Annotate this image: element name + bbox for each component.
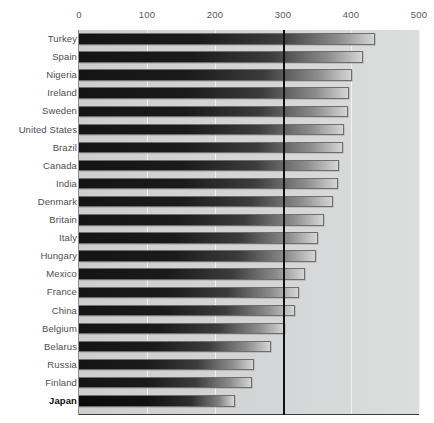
bar-row[interactable]: Italy (0, 229, 434, 247)
x-axis-tick-label: 500 (411, 9, 427, 20)
bar[interactable] (79, 377, 252, 388)
bar-row[interactable]: Ireland (0, 84, 434, 102)
bar[interactable] (79, 124, 344, 135)
bar[interactable] (79, 359, 254, 370)
bar-chart: 0100200300400500 TurkeySpainNigeriaIrela… (0, 0, 434, 423)
bar-row[interactable]: France (0, 283, 434, 301)
category-label: United States (19, 124, 77, 135)
bar-row[interactable]: Belarus (0, 338, 434, 356)
bar[interactable] (79, 51, 363, 62)
bar-row[interactable]: Mexico (0, 265, 434, 283)
emphasis-gridline (283, 30, 285, 415)
bar-row[interactable]: Britain (0, 211, 434, 229)
bar-row[interactable]: Canada (0, 157, 434, 175)
category-label: Spain (52, 51, 77, 62)
category-label: Denmark (38, 196, 77, 207)
bar[interactable] (79, 69, 352, 80)
bar-row[interactable]: United States (0, 121, 434, 139)
category-label: Belgium (42, 323, 77, 334)
bar-row[interactable]: Japan (0, 392, 434, 410)
bar[interactable] (79, 287, 299, 298)
category-label: Sweden (42, 105, 77, 116)
category-label: Finland (45, 377, 77, 388)
x-axis-tick-label: 400 (343, 9, 359, 20)
bar-row[interactable]: Belgium (0, 320, 434, 338)
bar[interactable] (79, 196, 333, 207)
category-label: Turkey (48, 33, 77, 44)
bar[interactable] (79, 33, 375, 44)
bar-row[interactable]: Russia (0, 356, 434, 374)
category-label: Ireland (47, 87, 77, 98)
bar[interactable] (79, 232, 318, 243)
bar-row[interactable]: Denmark (0, 193, 434, 211)
category-label: India (56, 178, 77, 189)
bar[interactable] (79, 87, 349, 98)
bar-row[interactable]: India (0, 175, 434, 193)
bar-row[interactable]: Turkey (0, 30, 434, 48)
category-label: Italy (59, 232, 77, 243)
bar[interactable] (79, 323, 285, 334)
bar[interactable] (79, 395, 235, 406)
bar-rows: TurkeySpainNigeriaIrelandSwedenUnited St… (0, 30, 434, 415)
bar[interactable] (79, 214, 324, 225)
category-label: Nigeria (46, 69, 77, 80)
bar-row[interactable]: Finland (0, 374, 434, 392)
bar-row[interactable]: Nigeria (0, 66, 434, 84)
bar[interactable] (79, 305, 295, 316)
bar[interactable] (79, 142, 343, 153)
category-label: Hungary (40, 250, 77, 261)
bar-row[interactable]: China (0, 302, 434, 320)
bar[interactable] (79, 268, 305, 279)
category-label: Canada (43, 160, 77, 171)
x-axis-tick-label: 100 (139, 9, 155, 20)
bar[interactable] (79, 106, 348, 117)
bar[interactable] (79, 160, 339, 171)
x-axis-tick-label: 200 (207, 9, 223, 20)
category-label: Brazil (53, 142, 77, 153)
x-axis-tick-label: 0 (76, 9, 81, 20)
category-label: Britain (49, 214, 77, 225)
bar-row[interactable]: Sweden (0, 102, 434, 120)
bar[interactable] (79, 341, 271, 352)
category-label: Japan (49, 395, 77, 406)
category-label: Mexico (46, 268, 77, 279)
x-axis-tick-label: 300 (275, 9, 291, 20)
category-label: France (47, 286, 77, 297)
bar-row[interactable]: Spain (0, 48, 434, 66)
category-label: Belarus (44, 341, 77, 352)
bar-row[interactable]: Hungary (0, 247, 434, 265)
category-label: Russia (47, 359, 77, 370)
bar[interactable] (79, 178, 338, 189)
category-label: China (52, 305, 77, 316)
bar[interactable] (79, 250, 316, 261)
bar-row[interactable]: Brazil (0, 139, 434, 157)
x-axis-tick-label-row: 0100200300400500 (0, 0, 434, 30)
